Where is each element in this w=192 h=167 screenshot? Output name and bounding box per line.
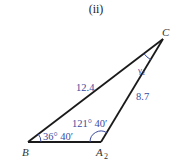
vertex-label-a: A bbox=[95, 146, 103, 158]
vertex-label-b: B bbox=[22, 146, 29, 158]
side-length-bc: 12.4 bbox=[76, 82, 95, 93]
vertex-label-c: C bbox=[162, 26, 170, 38]
angle-arc-b bbox=[38, 134, 41, 142]
angle-measure-a2: 121° 40′ bbox=[72, 118, 107, 129]
angle-arc-c bbox=[144, 54, 151, 60]
side-a2c bbox=[101, 39, 163, 142]
side-length-a2c: 8.7 bbox=[136, 91, 149, 102]
angle-measure-b: 36° 40′ bbox=[43, 131, 73, 142]
angle-measure-c: γ₂ bbox=[137, 65, 145, 75]
vertex-label-a-subscript: 2 bbox=[104, 152, 108, 161]
triangle-diagram: B A 2 C 12.4 8.7 36° 40′ 121° 40′ γ₂ bbox=[0, 0, 192, 167]
